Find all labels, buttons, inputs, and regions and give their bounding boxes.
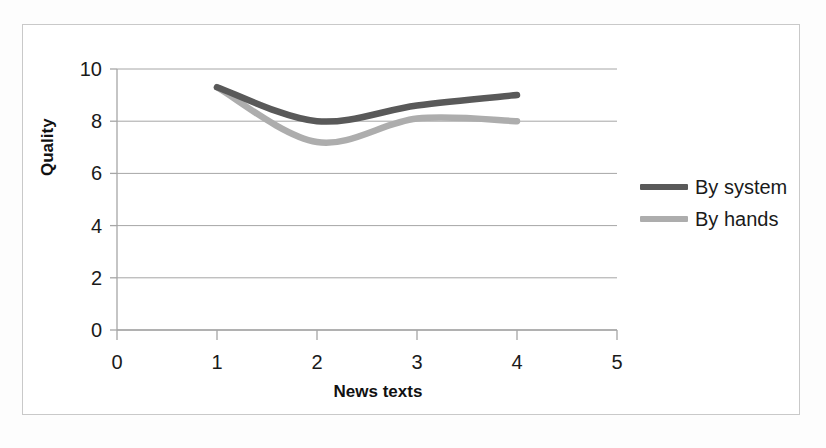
legend-color-swatch-by-system <box>640 184 688 190</box>
y-tick-label-8: 8 <box>52 111 102 131</box>
x-tick-label-5: 5 <box>597 352 637 372</box>
gridlines <box>117 69 617 330</box>
x-tick-label-0: 0 <box>97 352 137 372</box>
x-axis-title: News texts <box>298 382 458 402</box>
x-tick-label-1: 1 <box>197 352 237 372</box>
y-axis-ticks <box>110 69 117 330</box>
y-tick-label-0: 0 <box>52 320 102 340</box>
chart-legend: By system By hands <box>640 171 790 235</box>
legend-item-by-hands[interactable]: By hands <box>640 203 790 235</box>
figure-page: 10 8 6 4 2 0 0 1 2 3 4 5 Quality News te… <box>0 0 826 448</box>
legend-label-by-hands: By hands <box>695 209 778 229</box>
y-tick-label-4: 4 <box>52 216 102 236</box>
legend-label-by-system: By system <box>695 177 787 197</box>
x-tick-label-3: 3 <box>397 352 437 372</box>
x-axis-ticks <box>117 330 617 340</box>
x-tick-label-2: 2 <box>297 352 337 372</box>
legend-item-by-system[interactable]: By system <box>640 171 790 203</box>
y-axis-title: Quality <box>38 148 58 176</box>
y-tick-label-6: 6 <box>52 163 102 183</box>
x-tick-label-4: 4 <box>497 352 537 372</box>
y-tick-label-10: 10 <box>52 59 102 79</box>
y-tick-label-2: 2 <box>52 268 102 288</box>
legend-color-swatch-by-hands <box>640 216 688 222</box>
